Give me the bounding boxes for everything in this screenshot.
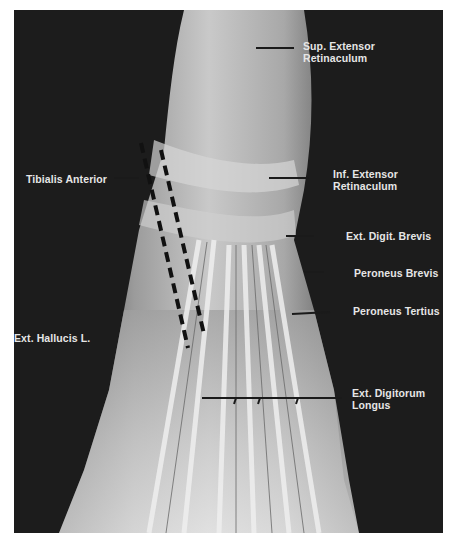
label-peroneus-tertius: Peroneus Tertius (353, 305, 440, 317)
label-ext-hallucis-l: Ext. Hallucis L. (14, 332, 90, 344)
label-peroneus-brevis: Peroneus Brevis (354, 267, 438, 279)
label-inf-extensor-retinaculum: Inf. Extensor Retinaculum (333, 168, 398, 192)
label-sup-extensor-retinaculum: Sup. Extensor Retinaculum (303, 40, 375, 64)
label-ext-digit-brevis: Ext. Digit. Brevis (346, 230, 431, 242)
dissection-photo: Sup. Extensor Retinaculum Tibialis Anter… (14, 10, 443, 533)
label-tibialis-anterior: Tibialis Anterior (26, 173, 107, 185)
label-ext-digitorum-longus: Ext. Digitorum Longus (352, 387, 425, 411)
